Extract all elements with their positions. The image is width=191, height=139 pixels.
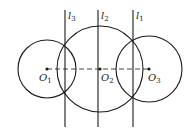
center-point-o2 — [98, 67, 101, 70]
center-point-o3 — [147, 67, 150, 70]
diagram-shapes — [18, 10, 182, 127]
center-point-o1 — [45, 67, 48, 70]
line-label-l1: l1 — [136, 10, 144, 23]
circles-lines-diagram: l3l2l1O1O2O3 — [0, 0, 191, 139]
center-label-o1: O1 — [39, 72, 52, 85]
line-label-l3: l3 — [68, 10, 76, 23]
center-label-o3: O3 — [148, 72, 161, 85]
line-label-l2: l2 — [101, 10, 109, 23]
center-label-o2: O2 — [101, 72, 114, 85]
